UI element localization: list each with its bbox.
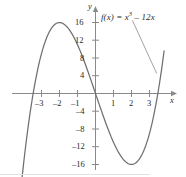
y-tick-label--4: –4 (76, 107, 85, 116)
x-tick-label--2: –2 (53, 99, 62, 108)
function-label-suffix: – 12x (132, 12, 155, 22)
x-axis-name: x (170, 96, 174, 105)
cubic-function-figure: f(x) = x3 – 12x x y –3 –2 –1 1 2 3 16 12… (0, 0, 186, 177)
y-tick-label--8: –8 (76, 125, 85, 134)
graph-canvas (0, 0, 186, 177)
x-tick-label-3: 3 (147, 99, 151, 108)
x-tick-label--3: –3 (35, 99, 44, 108)
x-tick-label-1: 1 (111, 99, 115, 108)
y-axis-name: y (88, 2, 92, 11)
function-label-prefix: f(x) = x (101, 12, 129, 22)
y-tick-label-8: 8 (80, 54, 84, 63)
annotation-leader-line (132, 20, 156, 73)
y-tick-label-12: 12 (75, 36, 84, 45)
bottom-divider (0, 174, 150, 175)
function-label: f(x) = x3 – 12x (101, 13, 155, 22)
x-tick-label-2: 2 (129, 99, 133, 108)
y-tick-label-4: 4 (80, 71, 84, 80)
y-tick-label-16: 16 (75, 18, 84, 27)
y-tick-label--12: –12 (72, 142, 85, 151)
y-tick-label--16: –16 (72, 160, 85, 169)
